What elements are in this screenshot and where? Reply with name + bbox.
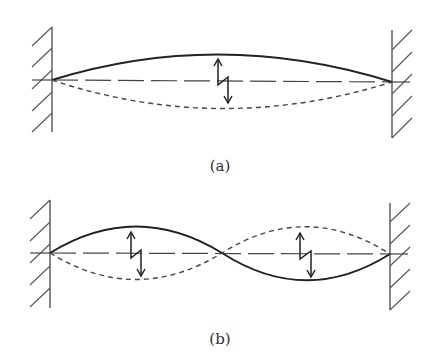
panel-a: (a) xyxy=(32,27,412,175)
caption-a: (a) xyxy=(210,157,231,175)
panel-b: (b) xyxy=(30,200,410,348)
oscillation-arrow-icon-b1 xyxy=(127,232,145,276)
left-wall-b xyxy=(30,200,50,308)
caption-b: (b) xyxy=(209,330,230,348)
oscillation-arrow-icon-b2 xyxy=(296,233,315,277)
solid-wave-a xyxy=(52,54,392,82)
right-wall-b xyxy=(390,203,410,310)
right-wall-a xyxy=(392,30,412,138)
dashed-wave-a xyxy=(52,80,392,109)
standing-wave-diagram: (a) xyxy=(0,0,435,362)
